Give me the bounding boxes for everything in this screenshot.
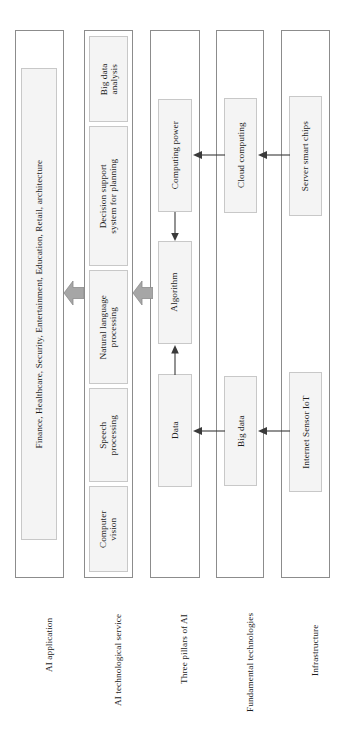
box-natural-language-processing-label: Natural language processing: [98, 295, 119, 360]
box-computer-vision[interactable]: Computer vision: [89, 486, 128, 572]
box-cloud-computing[interactable]: Cloud computing: [224, 98, 257, 213]
row-label-ai-technological-service: AI technological service: [113, 614, 123, 706]
box-internet-sensor-iot-label: Internet Sensor IoT: [300, 395, 310, 468]
box-server-smart-chips[interactable]: Server smart chips: [289, 96, 322, 216]
arrow-cloud-to-computing-power: [192, 149, 225, 161]
box-application-domains-label: Finance, Healthcare, Security, Entertain…: [34, 160, 44, 449]
row-label-infrastructure: Infrastructure: [310, 625, 320, 676]
box-algorithm-label: Algorithm: [170, 273, 180, 312]
arrow-computing-power-to-algorithm: [169, 212, 181, 242]
box-server-smart-chips-label: Server smart chips: [300, 121, 310, 191]
box-big-data[interactable]: Big data: [224, 376, 257, 486]
box-decision-support-system-label: Decision support system for planning: [98, 159, 119, 234]
row-label-fundamental-technologies: Fundamental technologies: [245, 613, 255, 712]
box-big-data-analysis-label: Big data analysis: [98, 63, 119, 95]
arrow-chips-to-cloud: [257, 149, 290, 161]
diagram-canvas: Finance, Healthcare, Security, Entertain…: [0, 0, 341, 742]
box-computer-vision-label: Computer vision: [98, 510, 119, 548]
box-internet-sensor-iot[interactable]: Internet Sensor IoT: [289, 372, 322, 492]
box-cloud-computing-label: Cloud computing: [235, 123, 245, 189]
box-big-data-analysis[interactable]: Big data analysis: [89, 36, 128, 122]
box-natural-language-processing[interactable]: Natural language processing: [89, 270, 128, 384]
arrow-iot-to-bigdata: [257, 425, 290, 437]
box-computing-power-label: Computing power: [170, 121, 180, 189]
box-speech-processing[interactable]: Speech processing: [89, 388, 128, 482]
arrow-data-to-algorithm: [169, 344, 181, 375]
row-label-ai-application: AI application: [44, 618, 54, 672]
box-big-data-label: Big data: [235, 415, 245, 447]
box-application-domains[interactable]: Finance, Healthcare, Security, Entertain…: [21, 68, 57, 540]
box-algorithm[interactable]: Algorithm: [158, 241, 192, 344]
box-speech-processing-label: Speech processing: [98, 415, 119, 455]
box-data-label: Data: [170, 422, 180, 440]
arrow-bigdata-to-data: [192, 425, 225, 437]
row-label-three-pillars-of-ai: Three pillars of AI: [179, 614, 189, 684]
box-decision-support-system[interactable]: Decision support system for planning: [89, 126, 128, 266]
box-computing-power[interactable]: Computing power: [158, 99, 192, 212]
block-arrow-service-to-application: [64, 278, 84, 308]
block-arrow-pillars-to-service: [133, 278, 153, 308]
box-data[interactable]: Data: [158, 374, 192, 487]
